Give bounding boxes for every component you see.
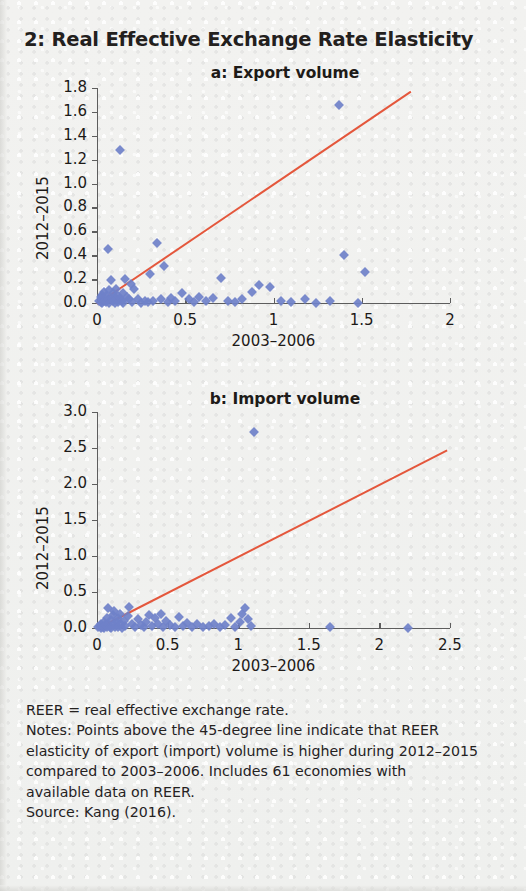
y-axis-tick-label: 2.5 (43, 438, 87, 456)
y-axis-line (97, 412, 98, 628)
figure-page: 2: Real Effective Exchange Rate Elastici… (0, 0, 526, 891)
x-axis-tick-label: 2.5 (430, 636, 470, 654)
scatter-point (216, 273, 226, 283)
notes-line-source: Source: Kang (2016). (26, 802, 506, 822)
page-edge-shadow-left (0, 0, 7, 891)
y-axis-tick (92, 207, 97, 208)
notes-line-5: available data on REER. (26, 782, 506, 802)
x-axis-title: 2003–2006 (214, 332, 334, 350)
notes-line-reer-definition: REER = real effective exchange rate. (26, 700, 506, 720)
x-axis-tick-label: 1.5 (289, 636, 329, 654)
y-axis-tick-label: 2.0 (43, 474, 87, 492)
notes-line-2: Notes: Points above the 45-degree line i… (26, 720, 506, 740)
x-axis-tick-label: 1.5 (342, 311, 382, 329)
scatter-point (159, 261, 169, 271)
y-axis-tick-label: 1.2 (43, 150, 87, 168)
y-axis-tick-label: 0.2 (43, 269, 87, 287)
figure-notes: REER = real effective exchange rate. Not… (26, 700, 506, 822)
notes-line-4: compared to 2003–2006. Includes 61 econo… (26, 761, 506, 781)
x-axis-tick (309, 623, 310, 628)
y-axis-tick (92, 484, 97, 485)
scatter-point (360, 267, 370, 277)
y-axis-tick-label: 0.0 (43, 618, 87, 636)
x-axis-tick-label: 0 (77, 311, 117, 329)
scatter-point (286, 297, 296, 307)
y-axis-tick (92, 160, 97, 161)
x-axis-tick-label: 2 (359, 636, 399, 654)
scatter-point (254, 280, 264, 290)
scatter-point (247, 287, 257, 297)
y-axis-tick (92, 231, 97, 232)
x-axis-title: 2003–2006 (214, 657, 334, 675)
y-axis-tick (92, 520, 97, 521)
y-axis-tick-label: 1.8 (43, 78, 87, 96)
y-axis-tick (92, 136, 97, 137)
x-axis-tick (450, 623, 451, 628)
y-axis-tick-label: 1.4 (43, 126, 87, 144)
y-axis-tick-label: 0.0 (43, 293, 87, 311)
y-axis-title: 2012–2015 (34, 506, 52, 590)
panel-b-title: b: Import volume (22, 390, 526, 408)
scatter-point (403, 623, 413, 633)
x-axis-tick-label: 1 (218, 636, 258, 654)
y-axis-tick (92, 255, 97, 256)
scatter-point (103, 244, 113, 254)
x-axis-tick-label: 0.5 (148, 636, 188, 654)
scatter-point (152, 238, 162, 248)
scatter-point (145, 269, 155, 279)
y-axis-tick (92, 592, 97, 593)
notes-line-3: elasticity of export (import) volume is … (26, 741, 506, 761)
scatter-point (249, 427, 259, 437)
forty-five-degree-reference-line (97, 450, 448, 630)
page-edge-shadow-bottom (0, 885, 526, 891)
y-axis-title: 2012–2015 (34, 176, 52, 260)
y-axis-tick (92, 112, 97, 113)
y-axis-tick (92, 88, 97, 89)
scatter-point (325, 622, 335, 632)
y-axis-line (97, 88, 98, 303)
y-axis-tick (92, 279, 97, 280)
scatter-point (339, 250, 349, 260)
figure-title: 2: Real Effective Exchange Rate Elastici… (24, 28, 473, 51)
y-axis-tick-label: 3.0 (43, 402, 87, 420)
x-axis-tick-label: 2 (430, 311, 470, 329)
x-axis-tick (450, 298, 451, 303)
scatter-point (265, 283, 275, 293)
scatter-point (311, 298, 321, 308)
x-axis-tick-label: 1 (254, 311, 294, 329)
panel-a-title: a: Export volume (22, 64, 526, 82)
x-axis-tick-label: 0.5 (165, 311, 205, 329)
x-axis-tick (379, 623, 380, 628)
y-axis-tick (92, 184, 97, 185)
y-axis-tick (92, 448, 97, 449)
y-axis-tick (92, 556, 97, 557)
x-axis-tick-label: 0 (77, 636, 117, 654)
scatter-point (115, 145, 125, 155)
y-axis-tick (92, 412, 97, 413)
scatter-point (334, 100, 344, 110)
y-axis-tick-label: 1.6 (43, 102, 87, 120)
